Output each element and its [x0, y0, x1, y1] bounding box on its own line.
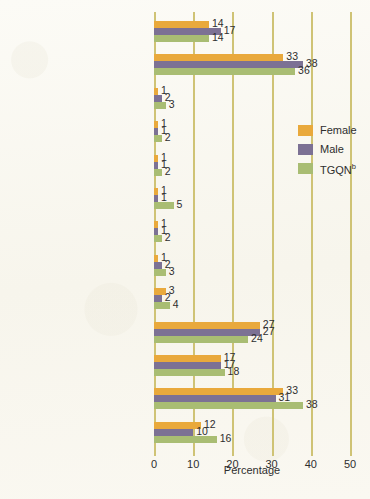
bar-female	[154, 21, 209, 28]
bar-male	[154, 262, 162, 269]
bar-male	[154, 295, 162, 302]
x-tick-40	[311, 450, 313, 456]
bar-row-tgqn: 16	[154, 436, 350, 443]
bar-row-female: 1	[154, 221, 350, 228]
bar-value-label: 14	[212, 34, 224, 41]
bar-group: Coach or trainer112	[0, 221, 370, 242]
bar-value-label: 16	[220, 435, 232, 442]
bar-male	[154, 95, 162, 102]
bar-row-tgqn: 5	[154, 202, 350, 209]
bar-value-label: 2	[165, 234, 171, 241]
bar-value-label: 31	[279, 394, 291, 401]
bar-value-label: 38	[306, 401, 318, 408]
bar-row-female: 33	[154, 54, 350, 61]
bar-tgqn	[154, 135, 162, 142]
bar-group: Teacher123	[0, 88, 370, 109]
bar-group: Live-in residential staff115	[0, 188, 370, 209]
bar-value-label: 24	[251, 335, 263, 342]
bar-value-label: 3	[169, 268, 175, 275]
bar-row-male: 2	[154, 295, 350, 302]
x-tick-10	[193, 450, 195, 456]
bar-male	[154, 395, 276, 402]
bar-value-label: 2	[165, 168, 171, 175]
bar-value-label: 17	[224, 27, 236, 34]
bar-value-label: 3	[169, 101, 175, 108]
legend-label-tgqn: TGQNb	[320, 162, 356, 176]
bar-male	[154, 128, 158, 135]
legend-item-tgqn[interactable]: TGQNb	[298, 162, 357, 176]
bar-row-male: 10	[154, 429, 350, 436]
legend-item-male[interactable]: Male	[298, 143, 357, 155]
x-tick-20	[232, 450, 234, 456]
bar-row-female: 27	[154, 322, 350, 329]
bar-row-male: 17	[154, 362, 350, 369]
bar-group: Someone I previously hadbeen involved on…	[0, 54, 370, 75]
bar-male	[154, 429, 193, 436]
legend-label-female: Female	[320, 124, 357, 136]
bar-row-tgqn: 38	[154, 402, 350, 409]
bar-row-female: 12	[154, 422, 350, 429]
bar-male	[154, 162, 158, 169]
bar-female	[154, 355, 221, 362]
bar-row-male: 2	[154, 262, 350, 269]
bar-female	[154, 54, 283, 61]
bar-group: Boss or supervisor123	[0, 255, 370, 276]
bar-group: Did not know orrecognize this person1210…	[0, 422, 370, 443]
bar-value-label: 10	[196, 428, 208, 435]
bar-tgqn	[154, 68, 295, 75]
bar-row-female: 1	[154, 255, 350, 262]
bar-tgqn	[154, 302, 170, 309]
bar-row-female: 1	[154, 88, 350, 95]
x-axis-title: Percentage	[154, 464, 350, 476]
bar-female	[154, 422, 201, 429]
bar-row-female: 17	[154, 355, 350, 362]
bar-value-label: 2	[165, 294, 171, 301]
bar-row-tgqn: 14	[154, 35, 350, 42]
legend-label-male: Male	[320, 143, 344, 155]
bar-row-tgqn: 3	[154, 269, 350, 276]
bar-female	[154, 255, 158, 262]
bar-row-male: 1	[154, 228, 350, 235]
bar-female	[154, 88, 158, 95]
x-tick-50	[350, 450, 352, 456]
bar-value-label: 1	[161, 194, 167, 201]
bar-row-tgqn: 4	[154, 302, 350, 309]
bar-row-male: 2	[154, 95, 350, 102]
bar-male	[154, 195, 158, 202]
x-tick-0	[154, 450, 156, 456]
bar-row-tgqn: 24	[154, 336, 350, 343]
bar-row-female: 14	[154, 21, 350, 28]
bar-value-label: 5	[177, 201, 183, 208]
bar-tgqn	[154, 169, 162, 176]
bar-tgqn	[154, 102, 166, 109]
bar-tgqn	[154, 235, 162, 242]
legend-swatch-tgqn	[298, 163, 313, 174]
bar-male	[154, 61, 303, 68]
bar-row-tgqn: 36	[154, 68, 350, 75]
bar-group: Someone I was involved orintimate with a…	[0, 21, 370, 42]
bar-female	[154, 322, 260, 329]
bar-row-tgqn: 2	[154, 235, 350, 242]
bar-value-label: 2	[165, 134, 171, 141]
bar-tgqn	[154, 436, 217, 443]
bar-row-female: 3	[154, 288, 350, 295]
bar-row-tgqn: 3	[154, 102, 350, 109]
legend-swatch-female	[298, 125, 313, 136]
bar-male	[154, 329, 260, 336]
bar-female	[154, 121, 158, 128]
bar-tgqn	[154, 202, 174, 209]
bar-row-female: 33	[154, 388, 350, 395]
bar-male	[154, 28, 221, 35]
legend-item-female[interactable]: Female	[298, 124, 357, 136]
bar-value-label: 33	[286, 53, 298, 60]
x-tick-30	[272, 450, 274, 456]
bar-female	[154, 221, 158, 228]
bar-value-label: 18	[228, 368, 240, 375]
legend: FemaleMaleTGQNb	[298, 124, 357, 183]
bar-tgqn	[154, 35, 209, 42]
bar-tgqn	[154, 269, 166, 276]
grouped-bar-chart: 01020304050 Someone I was involved orint…	[0, 0, 370, 499]
bar-row-male: 17	[154, 28, 350, 35]
bar-male	[154, 228, 158, 235]
bar-value-label: 4	[173, 301, 179, 308]
